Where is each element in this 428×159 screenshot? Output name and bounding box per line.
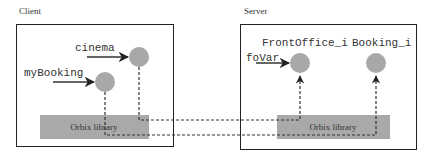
diagram: Client Orbix library cinema myBooking Se… (0, 0, 428, 159)
mybooking-object (95, 72, 115, 92)
server-library-label: Orbix library (309, 122, 357, 132)
client-library-label: Orbix library (70, 122, 118, 132)
fovar-ref-label: foVar (246, 52, 279, 64)
cinema-to-frontoffice-link (139, 67, 300, 120)
booking-class-label: Booking_i (352, 37, 412, 49)
frontoffice-class-label: FrontOffice_i (262, 37, 348, 49)
cinema-object (129, 47, 149, 67)
mybooking-ref-label: myBooking (24, 67, 83, 79)
server-title: Server (244, 6, 268, 16)
cinema-ref-label: cinema (75, 42, 115, 54)
client-title: Client (19, 6, 41, 16)
booking-object (366, 53, 386, 73)
frontoffice-object (290, 53, 310, 73)
